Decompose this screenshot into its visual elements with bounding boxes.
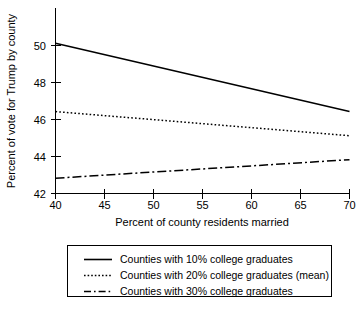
y-tick-label: 50	[34, 40, 46, 52]
x-tick-label: 70	[343, 199, 355, 211]
line-chart: 50 48 46 44 42 40 45 50 55 60 65 70 Pe	[0, 0, 364, 314]
y-tick-label: 46	[34, 114, 46, 126]
legend-label-30pct-college: Counties with 30% college graduates	[120, 285, 293, 297]
chart-figure: 50 48 46 44 42 40 45 50 55 60 65 70 Pe	[0, 0, 364, 314]
x-axis-title: Percent of county residents married	[115, 216, 289, 228]
y-tick-label: 48	[34, 77, 46, 89]
x-tick-label: 40	[49, 199, 61, 211]
legend-label-10pct-college: Counties with 10% college graduates	[120, 253, 293, 265]
y-tick-label: 42	[34, 188, 46, 200]
x-tick-label: 55	[196, 199, 208, 211]
y-axis-title: Percent of vote for Trump by county	[5, 13, 17, 188]
x-tick-label: 50	[147, 199, 159, 211]
x-tick-label: 65	[294, 199, 306, 211]
legend-label-20pct-college: Counties with 20% college graduates (mea…	[120, 269, 329, 281]
x-tick-label: 45	[98, 199, 110, 211]
x-tick-label: 60	[245, 199, 257, 211]
y-tick-label: 44	[34, 151, 46, 163]
